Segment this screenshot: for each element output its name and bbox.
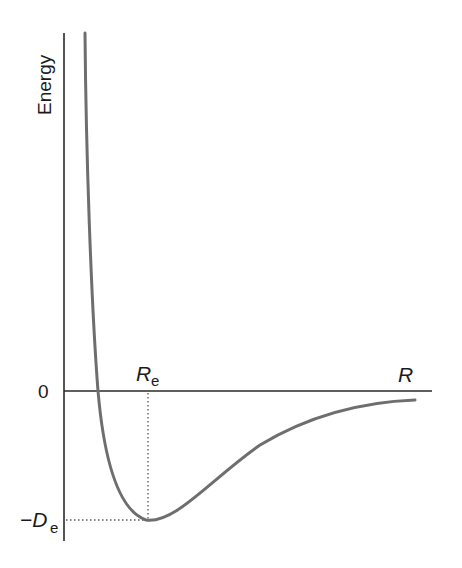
zero-label: 0 — [38, 381, 49, 402]
re-label: R — [136, 362, 151, 385]
de-label-subscript: e — [50, 519, 58, 536]
y-axis-label: Energy — [34, 54, 55, 115]
potential-curve — [85, 33, 415, 520]
potential-energy-diagram: Energy 0 R e R −D e — [0, 0, 462, 568]
re-label-subscript: e — [151, 372, 159, 389]
x-axis-label: R — [398, 363, 413, 386]
de-label: −D — [20, 508, 47, 531]
